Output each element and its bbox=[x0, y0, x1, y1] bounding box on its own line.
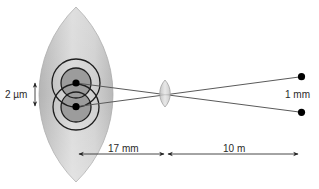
focal-length-label: 17 mm bbox=[108, 143, 139, 154]
image-point-lower bbox=[72, 103, 79, 110]
object-point-lower bbox=[298, 109, 305, 116]
object-point-upper bbox=[298, 73, 305, 80]
image-point-upper bbox=[72, 79, 79, 86]
image-separation-label: 2 µm bbox=[5, 89, 27, 100]
pupil-lens bbox=[160, 80, 170, 107]
object-distance-label: 10 m bbox=[223, 143, 245, 154]
object-separation-label: 1 mm bbox=[285, 89, 310, 100]
optics-diagram: 2 µm 1 mm 17 mm 10 m bbox=[0, 0, 319, 189]
